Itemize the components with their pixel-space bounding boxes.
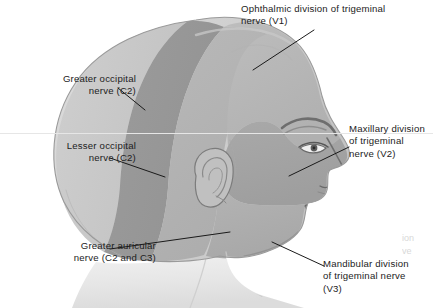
label-greater-occipital: Greater occipital nerve (C2) (6, 73, 136, 98)
page-bleedthrough-text: ion ve (402, 232, 432, 306)
label-ophthalmic-v1: Ophthalmic division of trigeminal nerve … (241, 3, 431, 28)
label-greater-auricular: Greater auricular nerve (C2 and C3) (16, 240, 156, 265)
leader-line-mandibular-v3 (272, 242, 324, 266)
label-lesser-occipital: Lesser occipital nerve (C2) (2, 140, 136, 165)
figure-canvas: Ophthalmic division of trigeminal nerve … (0, 0, 433, 308)
label-maxillary-v2: Maxillary division of trigeminal nerve (… (349, 123, 433, 160)
